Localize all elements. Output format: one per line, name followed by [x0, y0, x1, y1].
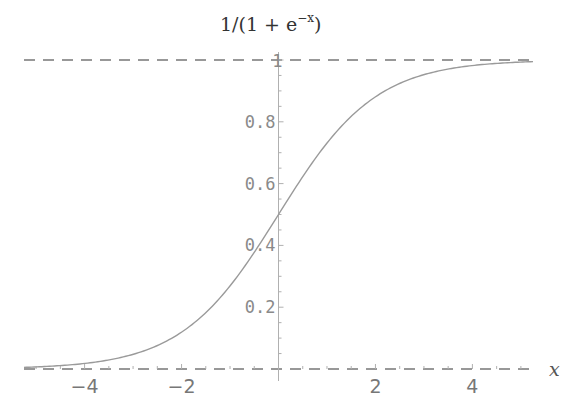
x-tick-label: 2: [369, 375, 381, 397]
chart-title-main: 1/(1 + e: [220, 13, 297, 35]
chart-title-close: ): [314, 13, 321, 35]
y-tick-label: 0.2: [245, 297, 276, 317]
chart-title-superscript: −x: [297, 11, 314, 25]
y-tick-label: 0.6: [245, 174, 276, 194]
sigmoid-chart: 1/(1 + e−x) 0.20.40.60.81 −4−224 x: [0, 0, 578, 419]
x-tick-label: 4: [466, 375, 478, 397]
y-tick-label: 1: [272, 51, 282, 71]
chart-title: 1/(1 + e−x): [220, 11, 321, 35]
y-tick-label: 0.4: [245, 235, 276, 255]
y-tick-label: 0.8: [245, 112, 276, 132]
x-tick-label: −2: [168, 375, 196, 397]
x-tick-label: −4: [71, 375, 99, 397]
axes: [36, 52, 521, 381]
x-tick-labels: −4−224: [71, 375, 479, 397]
x-axis-label: x: [549, 358, 560, 380]
y-tick-labels: 0.20.40.60.81: [245, 51, 283, 317]
